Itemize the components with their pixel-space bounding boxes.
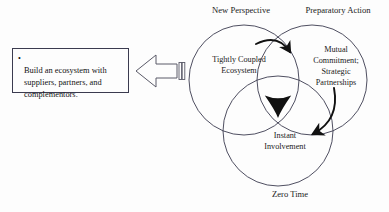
arrow-preparation-to-involvement-icon xyxy=(313,88,335,134)
triple-intersection-wedge-icon xyxy=(265,96,291,119)
venn-label-preparatory-action: Preparatory Action xyxy=(288,6,388,16)
left-block-arrow-icon xyxy=(136,55,185,87)
circle-tightly-coupled-ecosystem xyxy=(189,25,299,135)
venn-label-new-perspective: New Perspective xyxy=(186,6,296,16)
venn-circle-label-mutual-commitment: Mutual Commitment; Strategic Partnership… xyxy=(297,44,375,89)
venn-label-zero-time: Zero Time xyxy=(245,190,335,200)
venn-circle-label-tightly-coupled-ecosystem: Tightly Coupled Ecosystem xyxy=(196,55,282,77)
diagram-canvas: •Build an ecosystem with suppliers, part… xyxy=(0,0,389,212)
callout-text: •Build an ecosystem with suppliers, part… xyxy=(18,53,126,113)
arrow-perspective-to-preparation-icon xyxy=(256,40,290,52)
bullet-glyph: • xyxy=(18,53,21,64)
callout-body-text: Build an ecosystem with suppliers, partn… xyxy=(24,65,126,101)
venn-circle-label-instant-involvement: Instant Involvement xyxy=(243,131,327,153)
